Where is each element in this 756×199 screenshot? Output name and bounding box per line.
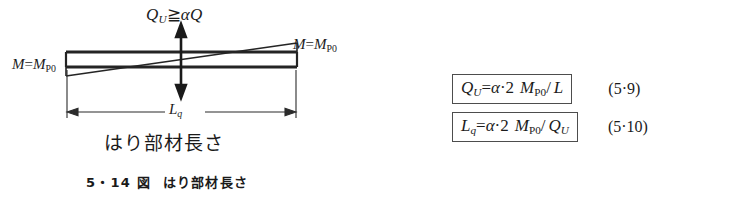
equation-number-5-10: (5·10) [608, 118, 648, 136]
eq2-coefficient: 2 [500, 116, 509, 135]
moment-label-right: M=MP0 [293, 36, 337, 54]
eq2-denominator: Q [549, 116, 561, 135]
moment-left-equals: = [25, 56, 33, 72]
eq2-moment: M [515, 116, 529, 135]
figure-caption-number: 5・14 図 [86, 175, 151, 190]
figure-caption-text: はり部材長さ [163, 175, 248, 190]
beam-diagram-graphic [0, 0, 400, 199]
shear-symbol: Q [146, 5, 158, 24]
eq2-slash: / [541, 116, 546, 135]
moment-right-subscript: P0 [326, 43, 336, 54]
shear-capacity-label: QU≧αQ [146, 4, 202, 25]
figure-caption: 5・14 図はり部材長さ [86, 172, 248, 191]
dimension-label-lq: Lq [169, 101, 182, 119]
shear-demand: αQ [181, 5, 203, 24]
shear-subscript: U [158, 13, 166, 25]
eq1-lhs: Q [461, 78, 473, 97]
equation-row-5-9: QU=α·2MP0/L (5·9) [452, 74, 640, 104]
beam-figure-panel: QU≧αQ M=MP0 M=MP0 Lq はり部材長さ 5・14 図はり部材長さ [0, 0, 400, 199]
moment-left-lhs: M [12, 56, 25, 72]
eq1-denominator: L [554, 78, 563, 97]
eq1-equals: = [481, 78, 491, 97]
eq2-denominator-subscript: U [561, 124, 569, 136]
moment-right-equals: = [306, 36, 314, 52]
eq1-moment: M [520, 78, 534, 97]
lq-subscript: q [177, 108, 182, 119]
equation-box-5-10: Lq=α·2MP0/QU [452, 112, 578, 142]
eq2-alpha: α [486, 116, 495, 135]
eq1-coefficient: 2 [506, 78, 515, 97]
shear-force-arrow [176, 24, 186, 98]
eq2-moment-subscript: P0 [529, 124, 541, 136]
eq1-alpha: α [491, 78, 500, 97]
eq1-moment-subscript: P0 [534, 86, 546, 98]
moment-left-subscript: P0 [45, 63, 55, 74]
equation-row-5-10: Lq=α·2MP0/QU (5·10) [452, 112, 648, 142]
equations-panel: QU=α·2MP0/L (5·9) Lq=α·2MP0/QU (5·10) [400, 0, 756, 199]
moment-right-rhs: M [314, 36, 327, 52]
moment-right-lhs: M [293, 36, 306, 52]
moment-left-rhs: M [33, 56, 46, 72]
shear-relation-icon: ≧ [167, 5, 181, 24]
eq2-equals: = [476, 116, 486, 135]
moment-label-left: M=MP0 [12, 56, 56, 74]
equation-box-5-9: QU=α·2MP0/L [452, 74, 572, 104]
member-length-text: はり部材長さ [104, 128, 224, 155]
equation-number-5-9: (5·9) [608, 80, 640, 98]
eq1-slash: / [546, 78, 551, 97]
